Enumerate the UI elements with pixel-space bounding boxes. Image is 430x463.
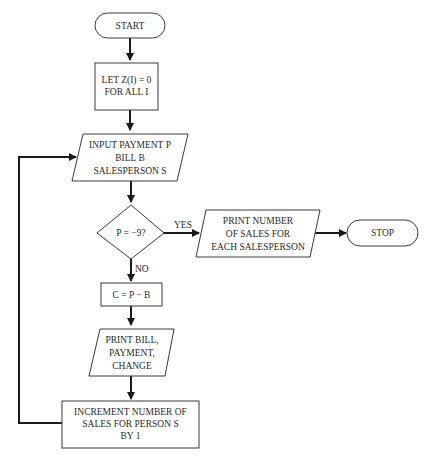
input-line-2: BILL B [115, 153, 144, 163]
increment-line-3: BY 1 [121, 431, 141, 441]
stop-label: STOP [371, 228, 394, 238]
flowchart: START LET Z(I) = 0 FOR ALL I INPUT PAYME… [0, 0, 430, 463]
input-line-3: SALESPERSON S [93, 166, 166, 176]
increment-line-1: INCREMENT NUMBER OF [74, 407, 187, 417]
init-line-1: LET Z(I) = 0 [102, 75, 152, 86]
yes-label: YES [174, 220, 192, 230]
input-io-box: INPUT PAYMENT P BILL B SALESPERSON S [72, 134, 188, 181]
decision-diamond: P = −9? [97, 205, 164, 259]
change-process-box: C = P − B [101, 283, 162, 306]
init-process-box: LET Z(I) = 0 FOR ALL I [95, 63, 158, 110]
print-bill-io-box: PRINT BILL, PAYMENT, CHANGE [89, 329, 174, 376]
no-label: NO [135, 264, 149, 274]
start-terminator: START [95, 13, 165, 38]
print-sales-io-box: PRINT NUMBER OF SALES FOR EACH SALESPERS… [196, 210, 320, 257]
print-bill-line-2: PAYMENT, [109, 348, 155, 358]
change-label: C = P − B [113, 290, 151, 300]
stop-terminator: STOP [347, 220, 418, 246]
print-bill-line-1: PRINT BILL, [105, 335, 158, 345]
input-line-1: INPUT PAYMENT P [89, 140, 171, 150]
print-bill-line-3: CHANGE [112, 361, 152, 371]
arrow-loop-back [19, 157, 76, 423]
print-sales-line-1: PRINT NUMBER [223, 216, 294, 226]
start-label: START [116, 21, 145, 31]
print-sales-line-3: EACH SALESPERSON [211, 242, 305, 252]
init-line-2: FOR ALL I [105, 87, 149, 97]
increment-process-box: INCREMENT NUMBER OF SALES FOR PERSON S B… [62, 401, 199, 448]
increment-line-2: SALES FOR PERSON S [82, 419, 178, 429]
decision-label: P = −9? [116, 228, 145, 238]
print-sales-line-2: OF SALES FOR [226, 229, 291, 239]
